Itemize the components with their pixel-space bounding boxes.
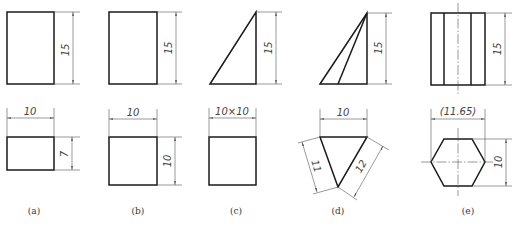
width-dim-text: 10×10 [215,106,249,117]
panel-label: (e) [462,206,474,216]
panel-e-front-view: 15 [431,3,512,94]
width-dim-text: 10 [337,107,350,118]
square-outline [109,137,157,185]
panel-b: 15 10 10 (b) [109,12,182,216]
triangle-outline [320,13,367,84]
panel-a: 15 10 7 (a) [7,12,80,216]
panel-label: (b) [132,206,145,216]
panel-c-front-view: 15 [210,12,282,84]
panel-d: 15 10 11 12 (d) [298,13,392,216]
panel-a-front-view: 15 [7,12,80,84]
depth-dim-text: 7 [59,150,70,157]
width-dim-text: 10 [24,106,37,117]
panel-label: (a) [28,206,40,216]
height-dim-text: 15 [263,42,274,55]
depth-dim-text: 10 [162,155,173,168]
rectangle-outline [109,12,157,84]
panel-b-top-view: 10 10 [109,107,182,185]
width-dim-text: (11.65) [440,106,476,117]
height-dim-text: 15 [492,43,503,56]
height-dim-text: 15 [373,42,384,55]
rectangle-outline [7,12,54,84]
depth-dim-text: 10 [493,156,504,169]
orthographic-drawing: 15 10 7 (a) 15 10 [0,0,516,226]
panel-c-top-view: 10×10 [209,106,256,185]
panel-label: (c) [230,206,242,216]
extension-line [338,187,357,200]
panel-e-top-view: (11.65) 10 [421,106,512,196]
pyramid-edge [338,13,367,84]
triangle-outline [210,12,256,84]
rectangle-outline [7,137,54,170]
panel-b-front-view: 15 [109,12,182,84]
right-side-dim-text: 12 [353,158,369,175]
height-dim-text: 15 [60,44,71,57]
extension-line [367,137,389,150]
panel-d-front-view: 15 [320,13,392,84]
panel-c: 15 10×10 (c) [209,12,282,216]
panel-d-top-view: 10 11 12 [298,107,389,200]
extension-line [298,137,320,143]
height-dim-text: 15 [163,42,174,55]
panel-label: (d) [332,206,345,216]
left-side-dim-text: 11 [309,158,323,173]
panel-a-top-view: 10 7 [7,106,80,170]
panel-e: 15 (11.65) 10 (e) [421,3,512,216]
square-outline [209,137,256,185]
width-dim-text: 10 [127,107,140,118]
